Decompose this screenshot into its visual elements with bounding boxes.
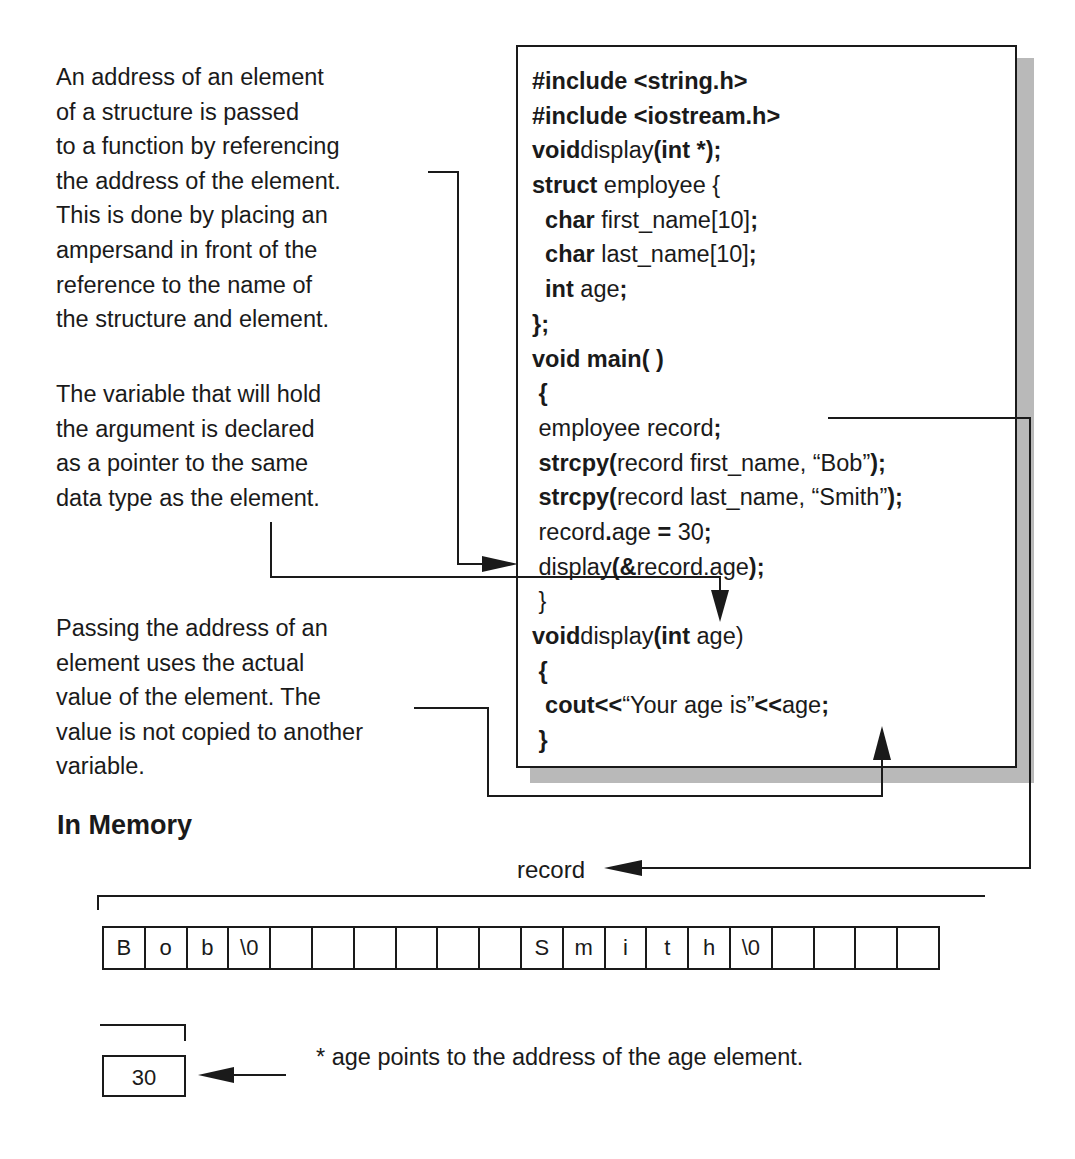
memory-cell: S (522, 928, 564, 968)
memory-cell: i (606, 928, 648, 968)
memory-cell: \0 (229, 928, 271, 968)
memory-cell (355, 928, 397, 968)
memory-cell (856, 928, 898, 968)
memory-cell: t (647, 928, 689, 968)
memory-cell (480, 928, 522, 968)
memory-cell: \0 (731, 928, 773, 968)
memory-cell (271, 928, 313, 968)
age-memory-cell: 30 (102, 1055, 186, 1097)
arrowheads (198, 556, 891, 1083)
memory-cell: m (564, 928, 606, 968)
arrow-up-icon (873, 726, 891, 760)
memory-cell: B (104, 928, 146, 968)
memory-title: In Memory (57, 810, 192, 841)
memory-cell (313, 928, 355, 968)
memory-cell: b (188, 928, 230, 968)
memory-cell (773, 928, 815, 968)
record-label: record (517, 856, 585, 884)
arrow-right-icon (482, 556, 518, 572)
arrow-left-icon (198, 1067, 234, 1083)
memory-cell: o (146, 928, 188, 968)
memory-cell (898, 928, 940, 968)
connector-lines (0, 0, 1075, 1159)
memory-cell: h (689, 928, 731, 968)
memory-cell (438, 928, 480, 968)
arrow-left-icon (604, 860, 642, 876)
memory-cell (815, 928, 857, 968)
arrow-down-icon (711, 590, 729, 622)
memory-cell (397, 928, 439, 968)
record-memory-cells: Bob\0Smith\0 (102, 926, 940, 970)
age-note: * age points to the address of the age e… (316, 1044, 803, 1071)
